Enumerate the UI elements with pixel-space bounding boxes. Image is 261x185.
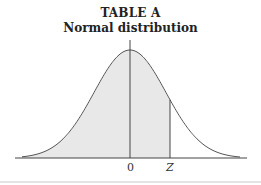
tick-label-zero: 0 (127, 161, 134, 174)
shaded-area (22, 50, 170, 158)
divider (0, 181, 261, 183)
normal-curve-chart (0, 0, 261, 185)
tick-label-z: Z (166, 161, 174, 174)
